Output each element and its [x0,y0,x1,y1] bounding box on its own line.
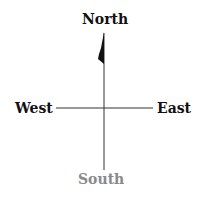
south-label: South [78,172,124,186]
north-arrow-icon [98,32,104,64]
north-label: North [82,12,128,26]
west-label: West [15,101,53,115]
east-label: East [157,101,191,115]
